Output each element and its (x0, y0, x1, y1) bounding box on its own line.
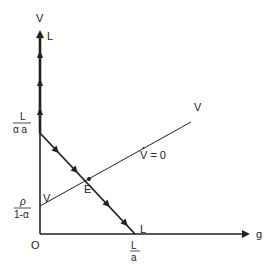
up-arrow-3 (37, 107, 43, 115)
v-line-end-label: V (194, 101, 202, 113)
l-line-end-label: L (140, 223, 146, 235)
equilibrium-point (87, 177, 91, 181)
l-over-a-num: L (131, 240, 137, 251)
vdot-dot (143, 147, 145, 149)
up-arrow-1 (37, 50, 43, 58)
phase-diagram: V L g O L α a ρ 1-α L a L V V V = 0 E (0, 0, 275, 271)
vertical-axis-label-l: L (47, 30, 53, 42)
l-over-alpha-a-num: L (20, 111, 26, 122)
v-line (40, 122, 191, 206)
rho-over-one-minus-alpha-den: 1-α (14, 209, 29, 220)
l-over-alpha-a-den: α a (13, 124, 28, 135)
vdot-zero-label: V = 0 (140, 149, 166, 161)
equilibrium-label: E (84, 183, 91, 195)
rho-over-one-minus-alpha-num: ρ (19, 196, 26, 207)
horizontal-axis-label: g (256, 228, 262, 240)
vertical-axis-label-v: V (36, 12, 44, 24)
v-line-start-label: V (43, 192, 51, 204)
l-over-a-den: a (131, 252, 137, 263)
origin-label: O (31, 239, 40, 251)
up-arrow-2 (37, 78, 43, 86)
